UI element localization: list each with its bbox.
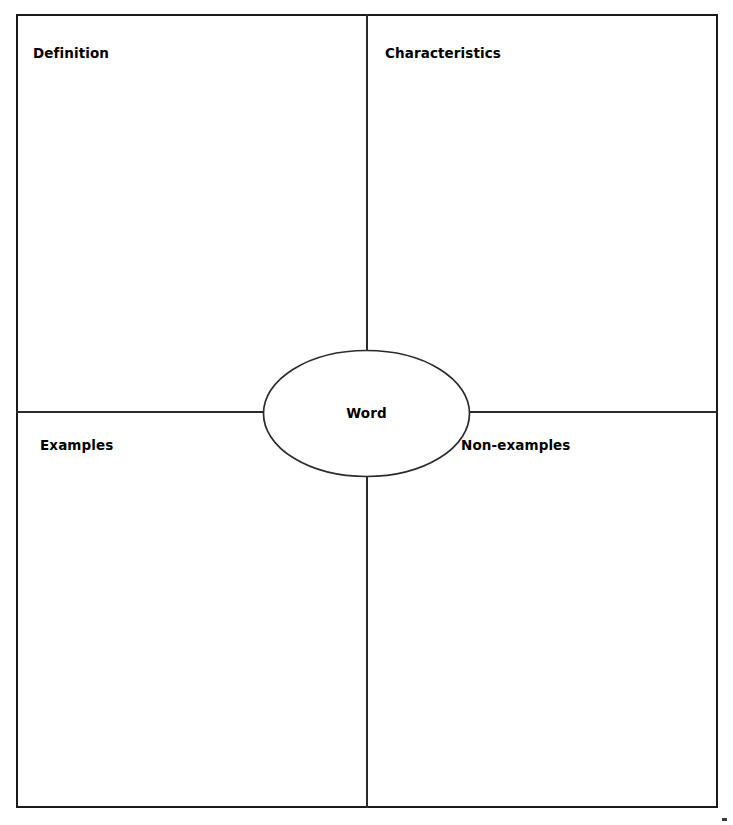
quadrant-label-examples: Examples (40, 439, 113, 453)
center-ellipse[interactable]: Word (262, 349, 471, 478)
center-word-label: Word (262, 349, 471, 478)
frayer-model-worksheet: Definition Characteristics Examples Non-… (0, 0, 733, 825)
quadrant-label-definition: Definition (33, 47, 109, 61)
quadrant-label-characteristics: Characteristics (385, 47, 501, 61)
quadrant-label-non-examples: Non-examples (461, 439, 571, 453)
scan-artifact-mark (722, 818, 727, 821)
